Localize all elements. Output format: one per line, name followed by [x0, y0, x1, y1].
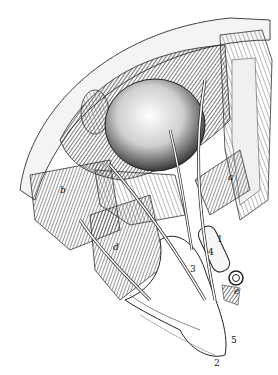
label-e: e	[234, 287, 239, 296]
label-3: 3	[190, 265, 196, 274]
label-2: 2	[214, 359, 220, 368]
label-4: 4	[208, 248, 214, 257]
label-a: a	[228, 173, 233, 182]
label-1: 1	[217, 235, 223, 244]
anatomical-engraving	[0, 0, 278, 375]
label-5: 5	[231, 336, 237, 345]
engraving-illustration	[0, 0, 278, 375]
label-b: b	[60, 186, 66, 195]
label-d: d	[113, 243, 119, 252]
